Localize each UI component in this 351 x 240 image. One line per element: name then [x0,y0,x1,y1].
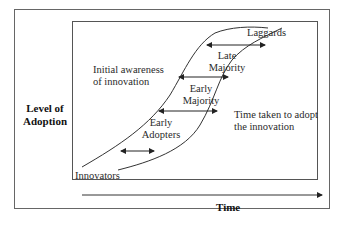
stage-label-early-majority: Early Majority [176,83,226,107]
x-axis-label: Time [216,201,240,214]
time-taken-annotation: Time taken to adopt the innovation [234,109,318,133]
y-axis-label: Level of Adoption [16,102,74,128]
stage-label-laggards: Laggards [247,27,286,39]
initial-awareness-annotation: Initial awareness of innovation [93,64,164,88]
stage-label-early-adopters: Early Adopters [136,117,186,141]
awareness-curve [82,27,268,167]
stage-label-late-majority: Late Majority [202,50,252,74]
stage-label-innovators: Innovators [75,170,120,182]
